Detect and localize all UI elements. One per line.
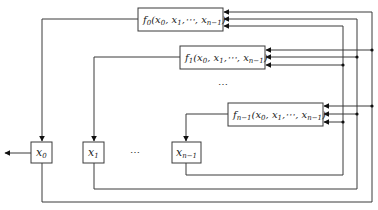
- function-box-f1: f1(x0, x1,⋯, xn−1): [180, 46, 268, 69]
- ellipsis-registers: ⋯: [130, 147, 140, 158]
- feedback-shift-register-diagram: f0(x0, x1,⋯, xn−1) f1(x0, x1,⋯, xn−1) ⋯ …: [0, 0, 378, 210]
- function-box-f0: f0(x0, x1,⋯, xn−1): [138, 8, 226, 31]
- function-box-fn-1: fn−1(x0, x1,⋯, xn−1): [228, 103, 326, 126]
- ellipsis-functions: ⋯: [218, 79, 228, 90]
- register-x0: x0: [31, 142, 52, 163]
- register-x1: x1: [83, 142, 104, 163]
- register-xn-1: xn−1: [172, 142, 201, 163]
